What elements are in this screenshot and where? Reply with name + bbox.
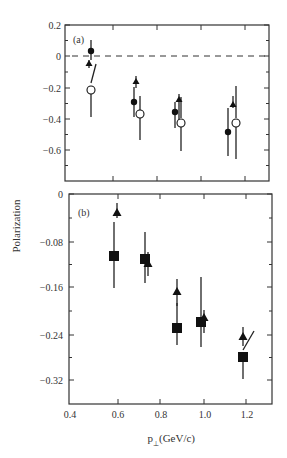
panel-a-ytick-label: −0.6 <box>43 145 61 156</box>
filled-circle-marker <box>225 129 231 135</box>
panel-b-ticks <box>69 194 272 404</box>
filled-circle-marker <box>131 99 137 105</box>
xtick-label: 1.0 <box>199 409 212 420</box>
xtick-label: 0.4 <box>64 409 77 420</box>
xtick-label: 1.2 <box>241 409 254 420</box>
panel-a-label: (a) <box>73 34 84 46</box>
filled-circle-marker <box>88 48 94 54</box>
panel-a-ytick-label: −0.4 <box>43 114 61 125</box>
open-circle-marker <box>136 110 144 118</box>
panel-b-ytick-label: −0.08 <box>40 237 63 248</box>
filled-square-marker <box>109 251 119 261</box>
figure: Polarization <box>0 0 287 458</box>
panel-b-markers <box>109 208 248 362</box>
panel-b-ytick-label: −0.24 <box>40 330 63 341</box>
panel-a-markers <box>86 48 241 135</box>
x-axis-title: p ⊥ (GeV/c) <box>148 432 196 448</box>
panel-a-error-bars <box>89 40 236 159</box>
filled-square-marker <box>172 323 182 333</box>
xtick-label: 0.6 <box>112 409 125 420</box>
panel-a-ytick-label: 0.2 <box>49 20 62 31</box>
filled-triangle-marker <box>133 78 140 84</box>
panel-a-frame <box>65 25 269 181</box>
open-circle-marker <box>232 119 240 127</box>
panel-b-ytick-label: −0.16 <box>40 282 63 293</box>
panel-b-ytick-label: 0 <box>58 189 63 200</box>
panel-a-ytick-label: −0.2 <box>43 83 61 94</box>
filled-circle-marker <box>172 109 178 115</box>
x-axis-title-unit: (GeV/c) <box>159 432 195 445</box>
open-circle-marker <box>177 119 185 127</box>
panel-b-ytick-label: −0.32 <box>40 375 63 386</box>
open-circle-marker <box>87 86 95 94</box>
filled-triangle-marker <box>86 60 93 66</box>
panel-b-frame <box>69 194 272 404</box>
panel-b: 0 −0.08 −0.16 −0.24 −0.32 0.4 0.6 0.8 1.… <box>40 189 272 420</box>
filled-triangle-marker <box>113 208 122 216</box>
filled-triangle-marker <box>239 332 248 340</box>
panel-a-y-ticks <box>65 25 269 181</box>
panel-b-error-bars <box>114 203 254 379</box>
panel-a: 0.2 0 −0.2 −0.4 −0.6 (a) <box>43 20 269 181</box>
panel-a-ytick-label: 0 <box>56 51 61 62</box>
y-axis-title: Polarization <box>10 199 22 253</box>
filled-triangle-marker <box>173 287 182 295</box>
panel-b-label: (b) <box>78 207 90 219</box>
xtick-label: 0.8 <box>155 409 168 420</box>
filled-square-marker <box>238 352 248 362</box>
